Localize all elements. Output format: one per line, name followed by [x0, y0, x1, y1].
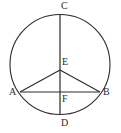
- vertex-label-c: C: [61, 1, 68, 11]
- segment-side-eb: [60, 70, 100, 92]
- vertex-label-f: F: [62, 94, 68, 104]
- geometry-figure: C E A B F D: [0, 0, 121, 133]
- vertex-label-d: D: [61, 118, 68, 128]
- vertex-label-b: B: [103, 87, 110, 97]
- vertex-label-a: A: [9, 87, 16, 97]
- vertex-label-e: E: [62, 57, 68, 67]
- geometry-canvas: [0, 0, 121, 133]
- segment-side-ae: [20, 70, 60, 92]
